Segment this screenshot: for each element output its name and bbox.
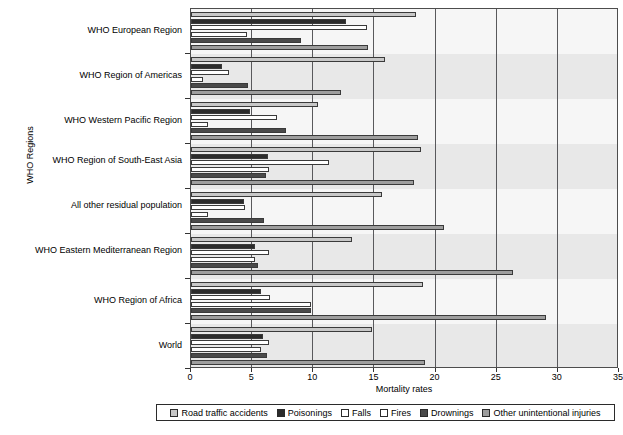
y-axis-category-labels: WHO European RegionWHO Region of America… — [14, 8, 186, 368]
gridline — [496, 9, 497, 367]
legend-item[interactable]: Fires — [380, 408, 411, 418]
legend-item[interactable]: Falls — [341, 408, 371, 418]
bar-other-unintentional-injuries — [191, 360, 425, 365]
bar-poisonings — [191, 109, 250, 114]
bar-other-unintentional-injuries — [191, 135, 418, 140]
gridline — [251, 9, 252, 367]
y-axis-tick — [185, 278, 190, 279]
gridline — [373, 9, 374, 367]
bar-road-traffic-accidents — [191, 57, 385, 62]
y-axis-tick — [185, 368, 190, 369]
y-axis-tick — [185, 323, 190, 324]
legend-swatch-icon — [341, 409, 349, 417]
legend-swatch-icon — [277, 409, 285, 417]
bar-other-unintentional-injuries — [191, 45, 368, 50]
legend-item[interactable]: Drownings — [420, 408, 474, 418]
gridline — [312, 9, 313, 367]
bar-drownings — [191, 353, 267, 358]
gridline — [435, 9, 436, 367]
y-axis-category-label: WHO Region of South-East Asia — [12, 155, 182, 166]
y-axis-tick — [185, 98, 190, 99]
bar-fires — [191, 122, 208, 127]
x-axis-ticks: 05101520253035 — [190, 368, 618, 384]
bar-falls — [191, 160, 329, 165]
y-axis-category-label: WHO Eastern Mediterranean Region — [12, 245, 182, 256]
y-axis-tick — [185, 53, 190, 54]
legend-label: Poisonings — [288, 408, 332, 418]
plot-area — [190, 8, 618, 368]
bar-poisonings — [191, 334, 263, 339]
bar-fires — [191, 347, 261, 352]
bar-falls — [191, 25, 367, 30]
bar-falls — [191, 70, 229, 75]
x-axis-tick-label: 15 — [368, 372, 378, 382]
bar-drownings — [191, 218, 264, 223]
bar-fires — [191, 32, 247, 37]
legend-label: Drownings — [431, 408, 474, 418]
y-axis-category-label: WHO Region of Africa — [12, 295, 182, 306]
bar-road-traffic-accidents — [191, 282, 423, 287]
x-axis-tick-label: 35 — [613, 372, 623, 382]
legend-swatch-icon — [482, 409, 490, 417]
bar-drownings — [191, 263, 258, 268]
bar-falls — [191, 295, 270, 300]
bar-drownings — [191, 38, 301, 43]
x-axis-tick-label: 25 — [491, 372, 501, 382]
bar-poisonings — [191, 19, 346, 24]
x-axis-tick-label: 0 — [187, 372, 192, 382]
bar-drownings — [191, 308, 311, 313]
bar-poisonings — [191, 244, 255, 249]
bar-other-unintentional-injuries — [191, 270, 513, 275]
bar-road-traffic-accidents — [191, 102, 318, 107]
bar-falls — [191, 340, 269, 345]
bar-road-traffic-accidents — [191, 12, 416, 17]
bar-falls — [191, 115, 277, 120]
legend-item[interactable]: Road traffic accidents — [170, 408, 267, 418]
y-axis-tick — [185, 143, 190, 144]
legend-item[interactable]: Other unintentional injuries — [482, 408, 600, 418]
bar-fires — [191, 302, 311, 307]
x-axis-tick-label: 20 — [430, 372, 440, 382]
bar-drownings — [191, 83, 248, 88]
legend-label: Road traffic accidents — [181, 408, 267, 418]
bar-road-traffic-accidents — [191, 192, 382, 197]
legend-swatch-icon — [170, 409, 178, 417]
x-axis-tick-label: 30 — [552, 372, 562, 382]
chart-legend: Road traffic accidentsPoisoningsFallsFir… — [156, 404, 615, 421]
bar-road-traffic-accidents — [191, 147, 421, 152]
bar-poisonings — [191, 199, 244, 204]
y-axis-tick — [185, 233, 190, 234]
bar-poisonings — [191, 289, 261, 294]
bar-falls — [191, 205, 245, 210]
bar-poisonings — [191, 64, 222, 69]
x-axis-tick-label: 5 — [249, 372, 254, 382]
x-axis-tick-label: 10 — [307, 372, 317, 382]
bar-other-unintentional-injuries — [191, 315, 546, 320]
y-axis-category-label: WHO European Region — [12, 25, 182, 36]
legend-label: Other unintentional injuries — [493, 408, 600, 418]
bar-fires — [191, 212, 208, 217]
legend-swatch-icon — [380, 409, 388, 417]
legend-label: Fires — [391, 408, 411, 418]
bar-falls — [191, 250, 269, 255]
y-axis-category-label: WHO Region of Americas — [12, 70, 182, 81]
bar-fires — [191, 167, 269, 172]
legend-label: Falls — [352, 408, 371, 418]
legend-swatch-icon — [420, 409, 428, 417]
x-axis-title: Mortality rates — [190, 384, 618, 394]
y-axis-tick — [185, 188, 190, 189]
gridline — [557, 9, 558, 367]
y-axis-category-label: All other residual population — [12, 200, 182, 211]
bar-road-traffic-accidents — [191, 327, 372, 332]
bar-other-unintentional-injuries — [191, 180, 414, 185]
bar-fires — [191, 257, 255, 262]
bar-drownings — [191, 173, 266, 178]
y-axis-category-label: World — [12, 340, 182, 351]
y-axis-category-label: WHO Western Pacific Region — [12, 115, 182, 126]
bar-road-traffic-accidents — [191, 237, 352, 242]
legend-item[interactable]: Poisonings — [277, 408, 332, 418]
bar-drownings — [191, 128, 286, 133]
bar-fires — [191, 77, 203, 82]
bar-other-unintentional-injuries — [191, 225, 444, 230]
